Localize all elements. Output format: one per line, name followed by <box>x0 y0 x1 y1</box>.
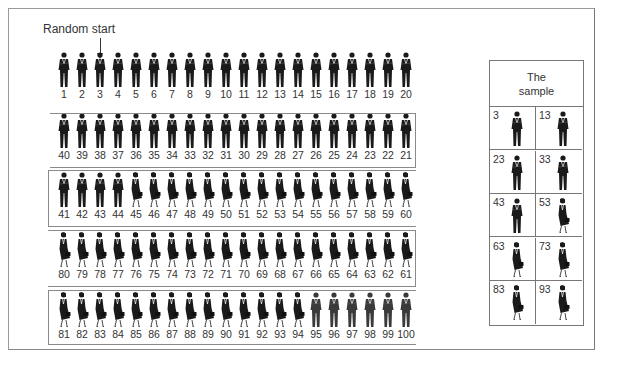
sample-number: 53 <box>539 196 551 208</box>
bracket-row4 <box>48 230 416 287</box>
sample-number: 13 <box>539 109 551 121</box>
random-start-label: Random start <box>43 22 115 36</box>
sample-item: 83 <box>490 281 536 324</box>
sample-item: 3 <box>490 107 536 150</box>
population-row: 1234567891011121314151617181920 <box>55 52 415 102</box>
member-number: 20 <box>393 88 419 100</box>
bracket-row5 <box>48 290 416 345</box>
sample-number: 93 <box>539 283 551 295</box>
sample-number: 43 <box>493 196 505 208</box>
sample-title: The sample <box>490 61 583 107</box>
sample-number: 63 <box>493 240 505 252</box>
sample-item: 53 <box>536 194 582 237</box>
sample-item: 93 <box>536 281 582 324</box>
sample-item: 13 <box>536 107 582 150</box>
bracket-row3 <box>48 170 416 227</box>
sample-item: 23 <box>490 151 536 194</box>
sample-number: 73 <box>539 240 551 252</box>
sample-item: 43 <box>490 194 536 237</box>
sample-number: 83 <box>493 283 505 295</box>
sample-panel: The sample 3132333435363738393 <box>489 60 584 326</box>
sample-number: 3 <box>493 109 499 121</box>
sample-number: 23 <box>493 153 505 165</box>
sample-item: 73 <box>536 238 582 281</box>
sample-title-line1: The <box>490 70 583 84</box>
sample-item: 63 <box>490 238 536 281</box>
sample-item: 33 <box>536 151 582 194</box>
sample-title-line2: sample <box>490 84 583 98</box>
bracket-row2 <box>50 113 416 168</box>
population-member: 20 <box>397 52 415 102</box>
sample-number: 33 <box>539 153 551 165</box>
